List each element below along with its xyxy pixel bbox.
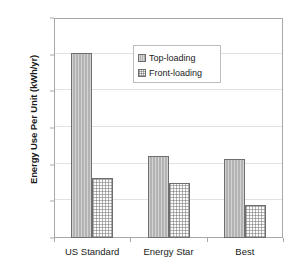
legend-item-front-loading: Front-loading (138, 65, 220, 80)
legend-item-top-loading: Top-loading (138, 50, 220, 65)
legend-label-top-loading: Top-loading (149, 53, 196, 63)
x-axis-tick-mark (207, 238, 208, 242)
legend-swatch-icon-top-loading (138, 54, 146, 62)
x-axis-tick-label: Best (200, 246, 290, 257)
x-axis-tick-mark (283, 238, 284, 242)
legend-swatch-icon-front-loading (138, 69, 146, 77)
bar-top-loading-us-standard (71, 53, 92, 238)
y-axis-title: Energy Use Per Unit (kWh/yr) (28, 25, 39, 215)
bar-top-loading-energy-star (148, 156, 169, 238)
bar-chart: Energy Use Per Unit (kWh/yr) 02004006008… (0, 0, 290, 273)
bar-top-loading-best (224, 159, 245, 238)
bar-front-loading-energy-star (169, 183, 190, 238)
legend-label-front-loading: Front-loading (149, 68, 202, 78)
x-axis-tick-mark (54, 238, 55, 242)
bar-front-loading-best (245, 205, 266, 238)
bar-front-loading-us-standard (92, 178, 113, 238)
x-axis-tick-mark (130, 238, 131, 242)
legend: Top-loading Front-loading (133, 45, 221, 83)
